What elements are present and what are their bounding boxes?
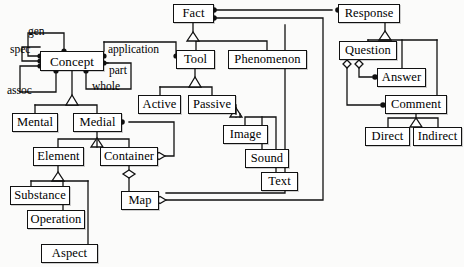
class-node-fact-label: Fact bbox=[183, 7, 205, 20]
class-node-indirect[interactable]: Indirect bbox=[413, 127, 462, 146]
class-node-passive-label: Passive bbox=[193, 98, 231, 111]
class-node-sound-label: Sound bbox=[251, 152, 283, 165]
class-node-answer[interactable]: Answer bbox=[377, 68, 426, 87]
edge-direct-indirect-isa-comment bbox=[388, 114, 438, 127]
class-node-container[interactable]: Container bbox=[100, 147, 158, 166]
class-node-operation[interactable]: Operation bbox=[27, 210, 85, 229]
class-node-tool-label: Tool bbox=[184, 53, 207, 66]
edge-label-spec: spec bbox=[10, 44, 30, 56]
class-node-tool[interactable]: Tool bbox=[176, 50, 215, 69]
class-node-answer-label: Answer bbox=[382, 71, 421, 84]
uml-class-diagram: Fact Response Concept Tool Phenomenon Qu… bbox=[0, 0, 464, 267]
edge-label-spec-text: spec bbox=[10, 43, 30, 55]
class-node-operation-label: Operation bbox=[31, 213, 82, 226]
class-node-substance[interactable]: Substance bbox=[10, 186, 70, 205]
class-node-mental[interactable]: Mental bbox=[12, 113, 58, 132]
class-node-mental-label: Mental bbox=[17, 116, 53, 129]
class-node-comment-label: Comment bbox=[391, 98, 441, 111]
class-node-indirect-label: Indirect bbox=[418, 130, 458, 143]
class-node-text[interactable]: Text bbox=[261, 172, 298, 191]
edge-label-assoc-text: assoc bbox=[7, 84, 32, 96]
class-node-comment[interactable]: Comment bbox=[385, 95, 447, 114]
class-node-sound[interactable]: Sound bbox=[245, 149, 289, 168]
class-node-aspect[interactable]: Aspect bbox=[41, 244, 98, 263]
class-node-medial[interactable]: Medial bbox=[73, 113, 122, 132]
edge-label-gen: gen bbox=[28, 26, 45, 38]
edge-label-whole-text: whole bbox=[92, 80, 120, 92]
class-node-text-label: Text bbox=[268, 175, 290, 188]
edge-label-part: part bbox=[109, 65, 127, 77]
class-node-concept[interactable]: Concept bbox=[40, 51, 104, 71]
class-node-response-label: Response bbox=[345, 7, 394, 20]
class-node-question-label: Question bbox=[345, 44, 391, 57]
edge-tool-isa-fact bbox=[187, 23, 267, 50]
class-node-phenomenon-label: Phenomenon bbox=[234, 53, 300, 66]
edge-label-assoc: assoc bbox=[7, 85, 32, 97]
edge-label-application: application bbox=[108, 44, 159, 56]
class-node-question[interactable]: Question bbox=[339, 41, 397, 60]
edge-label-part-text: part bbox=[109, 64, 127, 76]
class-node-map-label: Map bbox=[128, 194, 151, 207]
class-node-direct[interactable]: Direct bbox=[365, 127, 410, 146]
class-node-direct-label: Direct bbox=[372, 130, 404, 143]
class-node-image-label: Image bbox=[230, 128, 262, 141]
class-node-element-label: Element bbox=[37, 150, 79, 163]
edge-label-application-text: application bbox=[108, 43, 159, 55]
class-node-active-label: Active bbox=[143, 98, 177, 111]
class-node-phenomenon[interactable]: Phenomenon bbox=[228, 50, 307, 69]
class-node-medial-label: Medial bbox=[79, 116, 115, 129]
class-node-response[interactable]: Response bbox=[338, 4, 400, 23]
edge-question-aggregates-answer bbox=[355, 60, 372, 77]
class-node-map[interactable]: Map bbox=[121, 191, 159, 210]
edge-label-gen-text: gen bbox=[28, 25, 45, 37]
edge-active-passive-isa-tool bbox=[160, 69, 212, 95]
class-node-fact[interactable]: Fact bbox=[173, 4, 214, 23]
class-node-container-label: Container bbox=[104, 150, 154, 163]
class-node-image[interactable]: Image bbox=[223, 125, 268, 144]
edge-substance-operation-aspect-isa-element bbox=[31, 166, 88, 244]
edge-element-container-isa-medial bbox=[58, 132, 129, 147]
class-node-aspect-label: Aspect bbox=[52, 247, 87, 260]
class-node-active[interactable]: Active bbox=[138, 95, 181, 114]
edge-label-whole: whole bbox=[92, 81, 120, 93]
class-node-concept-label: Concept bbox=[50, 55, 94, 68]
edge-question-aggregates-comment bbox=[343, 60, 380, 105]
class-node-substance-label: Substance bbox=[14, 189, 66, 202]
class-node-passive[interactable]: Passive bbox=[188, 95, 236, 114]
class-node-element[interactable]: Element bbox=[33, 147, 84, 166]
edge-container-aggregates-map bbox=[123, 166, 135, 191]
